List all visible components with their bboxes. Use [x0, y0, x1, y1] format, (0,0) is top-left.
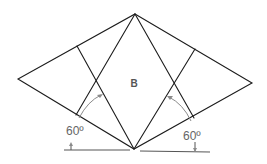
angle-label-left: 60º: [66, 124, 84, 138]
arrowhead-left-icon: [97, 94, 103, 98]
angle-label-right: 60º: [183, 129, 201, 143]
baseline-right: [140, 151, 210, 152]
inner-edge-bottom-left: [77, 46, 134, 149]
tick-arrow-left-icon: [69, 142, 73, 146]
angle-arc-left: [79, 95, 101, 118]
diamond-fold-diagram: B 60º 60º: [0, 0, 267, 164]
center-label: B: [130, 78, 137, 89]
arrowhead-right-icon: [167, 96, 173, 100]
angle-arc-right: [169, 97, 191, 121]
inner-edge-top-left: [76, 14, 135, 115]
